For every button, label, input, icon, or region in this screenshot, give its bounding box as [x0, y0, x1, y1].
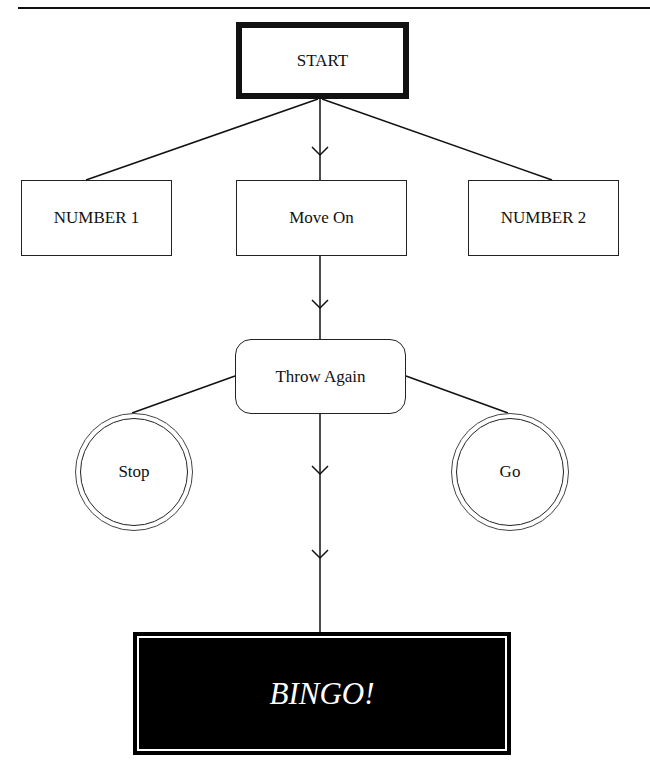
stop-label: Stop [118, 462, 149, 482]
bingo-label: BINGO! [269, 676, 374, 712]
go-label: Go [500, 462, 521, 482]
start-node: START [236, 22, 409, 99]
throw-again-label: Throw Again [275, 367, 365, 387]
bingo-end-node: BINGO! [133, 632, 511, 755]
number-2-node: NUMBER 2 [468, 180, 619, 256]
throw-again-node: Throw Again [235, 339, 406, 414]
move-on-label: Move On [289, 208, 354, 228]
go-inner-circle: Go [456, 418, 564, 526]
stop-node: Stop [75, 413, 193, 531]
number-2-label: NUMBER 2 [501, 208, 586, 228]
go-node: Go [451, 413, 569, 531]
start-label: START [297, 51, 348, 71]
move-on-node: Move On [236, 180, 407, 256]
number-1-node: NUMBER 1 [21, 180, 172, 256]
stop-inner-circle: Stop [80, 418, 188, 526]
bingo-inner-frame: BINGO! [137, 636, 507, 751]
number-1-label: NUMBER 1 [54, 208, 139, 228]
